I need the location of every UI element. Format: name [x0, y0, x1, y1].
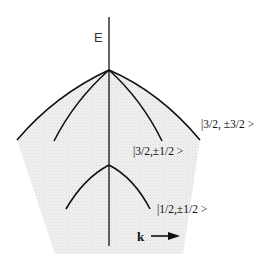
diagram-canvas	[0, 0, 267, 261]
light-hole-label: |3/2,±1/2 >	[133, 146, 183, 158]
energy-axis-label: E	[94, 31, 103, 44]
heavy-hole-label: |3/2, ±3/2 >	[201, 119, 254, 131]
k-axis-label: k	[137, 230, 144, 243]
split-off-label: |1/2,±1/2 >	[157, 204, 207, 216]
